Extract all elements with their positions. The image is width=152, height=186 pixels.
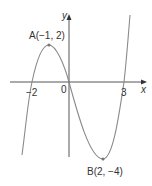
x-axis-label: x <box>140 84 147 95</box>
point-a-marker <box>47 43 50 46</box>
point-b-marker <box>101 157 104 160</box>
point-b-label: B(2, −4) <box>87 166 123 177</box>
cubic-graph: y x −2 0 3 A(−1, 2) B(2, −4) <box>0 0 152 186</box>
y-axis-label: y <box>61 10 68 21</box>
y-axis-arrow-icon <box>67 14 72 20</box>
tick-0: 0 <box>61 84 67 95</box>
point-a-label: A(−1, 2) <box>29 30 65 41</box>
tick-neg2: −2 <box>26 87 38 98</box>
tick-3: 3 <box>121 87 127 98</box>
